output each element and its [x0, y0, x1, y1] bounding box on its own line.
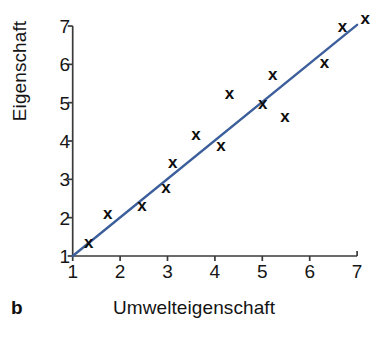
- y-tick-label: 1: [59, 247, 70, 266]
- panel-letter: b: [11, 297, 23, 319]
- scatter-plot-figure: xxxxxxxxxxxxxx 12345671234567 Eigenschaf…: [0, 0, 388, 344]
- data-point-marker: x: [137, 196, 147, 215]
- data-point-marker: x: [338, 17, 348, 36]
- data-point-marker: x: [191, 125, 201, 144]
- y-tick-label: 2: [59, 208, 70, 227]
- x-tick-label: 7: [352, 262, 363, 281]
- y-tick-label: 3: [59, 170, 70, 189]
- x-tick-label: 3: [162, 262, 173, 281]
- data-point-marker: x: [360, 9, 370, 28]
- x-axis-title: Umwelteigenschaft: [0, 297, 388, 319]
- data-point-marker: x: [161, 178, 171, 197]
- data-point-marker: x: [258, 94, 268, 113]
- y-tick-label: 7: [59, 17, 70, 36]
- y-tick-label: 6: [59, 55, 70, 74]
- data-point-marker: x: [216, 136, 226, 155]
- data-point-marker: x: [268, 65, 278, 84]
- plot-canvas: xxxxxxxxxxxxxx: [0, 0, 388, 344]
- trendline: [73, 25, 357, 256]
- x-tick-label: 5: [257, 262, 268, 281]
- data-point-marker: x: [103, 204, 113, 223]
- data-point-marker: x: [225, 84, 235, 103]
- data-point-marker: x: [84, 233, 94, 252]
- x-tick-label: 4: [210, 262, 221, 281]
- x-tick-label: 6: [304, 262, 315, 281]
- y-tick-label: 4: [59, 132, 70, 151]
- y-axis-title: Eigenschaft: [9, 0, 31, 161]
- y-tick-label: 5: [59, 93, 70, 112]
- data-point-marker: x: [168, 153, 178, 172]
- data-point-marker: x: [320, 53, 330, 72]
- data-point-marker: x: [280, 107, 290, 126]
- x-tick-label: 2: [115, 262, 126, 281]
